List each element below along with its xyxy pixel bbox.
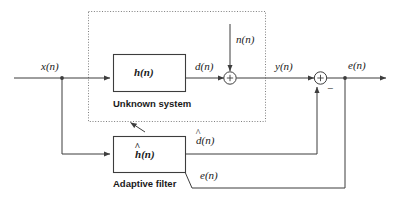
label-noise-signal: n(n) — [236, 33, 254, 45]
adaptive-filter-symbol-base: h^ — [135, 148, 141, 160]
label-error-feedback-signal: e(n) — [200, 169, 218, 181]
block-diagram-figure: x(n) d(n) n(n) y(n) e(n) e(n) d^(n) h(n)… — [0, 0, 395, 201]
adaptive-filter-symbol-arg: (n) — [141, 148, 154, 160]
filter-output-arg: (n) — [202, 134, 215, 146]
diagram-canvas — [0, 0, 395, 201]
unknown-system-symbol: h(n) — [134, 66, 154, 78]
label-filter-output-signal: d^(n) — [196, 134, 214, 146]
adaptive-filter-caption: Adaptive filter — [113, 178, 176, 189]
summer-error-minus-sign: − — [327, 82, 333, 94]
input-branch-dot — [60, 76, 64, 80]
label-desired-signal: d(n) — [195, 60, 213, 72]
error-tap-dot — [343, 76, 347, 80]
input-branch-line — [62, 78, 110, 154]
hat-accent-icon: ^ — [134, 141, 140, 152]
unknown-system-caption: Unknown system — [113, 98, 191, 109]
hat-accent-icon: ^ — [196, 127, 201, 138]
filter-output-base: d^ — [196, 134, 202, 146]
label-plant-output-signal: y(n) — [275, 60, 293, 72]
adaptation-arrow — [131, 123, 146, 133]
adaptive-filter-symbol: h^(n) — [135, 148, 155, 160]
label-error-output-signal: e(n) — [348, 59, 366, 71]
label-input-signal: x(n) — [41, 60, 59, 72]
